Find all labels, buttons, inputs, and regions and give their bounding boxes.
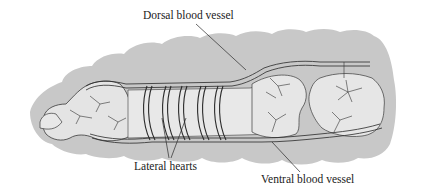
earthworm-circulation-diagram [0, 0, 428, 192]
lateral-hearts-label: Lateral hearts [134, 161, 197, 173]
ventral-blood-vessel-label: Ventral blood vessel [261, 174, 354, 186]
dorsal-blood-vessel-label: Dorsal blood vessel [143, 10, 234, 22]
crop [252, 75, 306, 138]
